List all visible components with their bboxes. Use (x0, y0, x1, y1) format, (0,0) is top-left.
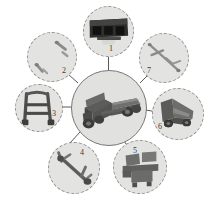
part-node-2[interactable]: 2 (27, 32, 77, 82)
part-node-5[interactable]: 5 (113, 140, 167, 194)
part-label-2: 2 (62, 67, 66, 75)
part-node-7[interactable]: 7 (139, 33, 189, 83)
part-node-3[interactable]: 3 (15, 84, 63, 132)
bracket-mount-plate-art (114, 141, 166, 193)
wheel-mid (94, 116, 104, 124)
part-label-6: 6 (158, 123, 162, 131)
wheel-rear-2 (131, 105, 141, 113)
part-node-1[interactable]: 1 (83, 6, 134, 57)
center-node-assembled-truck[interactable] (71, 70, 147, 146)
small-fasteners-art (28, 33, 76, 81)
part-label-5: 5 (133, 147, 137, 155)
part-node-6[interactable]: 6 (152, 88, 204, 140)
part-label-7: 7 (147, 67, 151, 75)
exploded-assembly-diagram: 1 2 3 (0, 0, 214, 203)
assembled-truck-art (72, 71, 146, 145)
part-label-1: 1 (109, 45, 113, 53)
part-node-4[interactable]: 4 (48, 142, 100, 194)
part-label-4: 4 (80, 149, 84, 157)
ladder-frame-rail-art (16, 85, 62, 131)
axle-linkage-arm-art (49, 143, 99, 193)
dump-bed-with-wheels-art (153, 89, 203, 139)
part-label-3: 3 (52, 110, 56, 118)
